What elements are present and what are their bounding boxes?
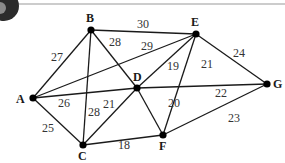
edge-weight-label: 23 xyxy=(228,111,240,125)
vertex-label: E xyxy=(191,15,199,29)
vertex-e xyxy=(192,30,199,37)
vertex-a xyxy=(29,94,36,101)
vertex-label: D xyxy=(133,70,142,84)
vertex-c xyxy=(79,141,86,148)
edge-weight-label: 27 xyxy=(51,50,63,64)
vertex-label: A xyxy=(16,92,25,106)
vertex-f xyxy=(159,131,166,138)
edge-weight-label: 28 xyxy=(88,105,100,119)
vertex-label: G xyxy=(273,77,282,91)
vertex-label: C xyxy=(78,149,87,163)
edge-labels-layer: 272526293028282118192021222423 xyxy=(42,17,245,152)
vertex-label: B xyxy=(86,11,94,25)
vertex-g xyxy=(263,80,270,87)
edge-weight-label: 25 xyxy=(42,121,54,135)
edge-weight-label: 21 xyxy=(103,97,115,111)
edge-weight-label: 21 xyxy=(201,57,213,71)
edge-weight-label: 28 xyxy=(109,35,121,49)
edge-d-g xyxy=(137,84,267,88)
vertex-d xyxy=(133,84,140,91)
edge-weight-label: 24 xyxy=(233,46,245,60)
edge-b-c xyxy=(83,30,91,145)
graph-diagram: 272526293028282118192021222423 ABCDEFG xyxy=(0,0,285,163)
edge-d-f xyxy=(137,88,163,135)
edge-weight-label: 30 xyxy=(137,17,149,31)
edge-weight-label: 19 xyxy=(167,59,179,73)
edge-a-b xyxy=(33,30,91,98)
badge-icon xyxy=(0,0,19,21)
edge-a-d xyxy=(33,88,137,98)
vertex-label: F xyxy=(159,139,166,153)
edge-weight-label: 26 xyxy=(58,96,70,110)
vertex-b xyxy=(87,26,94,33)
edge-weight-label: 29 xyxy=(141,39,153,53)
edge-weight-label: 20 xyxy=(168,96,180,110)
edge-weight-label: 22 xyxy=(215,86,227,100)
edge-weight-label: 18 xyxy=(118,138,130,152)
